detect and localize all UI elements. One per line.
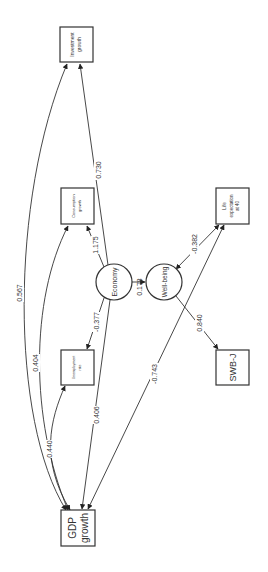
edge-label-gdp-investment: 0.567 [15, 284, 24, 302]
node-unemployment-rate: Unemployment rate [61, 350, 94, 385]
svg-text:0.404: 0.404 [32, 354, 39, 372]
investment-label-2: growth [76, 37, 82, 52]
gdp-label-1: GDP [67, 517, 78, 539]
svg-text:1.175: 1.175 [92, 236, 99, 254]
life-label-2: expectation [229, 194, 234, 218]
consumption-label-1: Consumption [71, 194, 76, 218]
edge-label-economy-wellbeing: 0.178 [136, 278, 143, 296]
node-gdp-growth: GDP growth [61, 510, 95, 546]
node-life-expectation: Life expectation at 40 [216, 188, 249, 224]
svg-text:0.178: 0.178 [136, 278, 143, 296]
economy-label: Economy [111, 267, 119, 297]
svg-text:0.567: 0.567 [16, 284, 23, 302]
edge-label-wellbeing-life: -0.382 [190, 233, 199, 255]
unemployment-label-2: rate [78, 364, 82, 370]
edge-label-economy-investment: 0.730 [94, 160, 103, 180]
life-label-3: at 40 [235, 201, 240, 212]
node-swb-j: SWB-J [216, 350, 249, 385]
svg-text:0.840: 0.840 [196, 314, 203, 332]
node-investment-growth: Investment growth [60, 27, 93, 62]
edge-label-economy-consumption: 1.175 [91, 236, 100, 254]
edge-label-gdp-consumption: 0.404 [31, 354, 40, 372]
unemployment-label-1: Unemployment [72, 356, 76, 380]
edge-label-wellbeing-swb: 0.840 [195, 314, 204, 332]
svg-text:0.440: 0.440 [46, 440, 53, 458]
edge-label-economy-gdp: 0.406 [92, 406, 101, 424]
node-consumption-growth: Consumption growth [61, 188, 94, 224]
edge-label-gdp-unemployment: 0.440 [45, 440, 54, 458]
svg-text:0.406: 0.406 [93, 406, 100, 424]
svg-text:-0.743: -0.743 [151, 364, 158, 384]
edge-label-gdp-life: -0.743 [150, 363, 159, 385]
gdp-label-2: growth [79, 513, 90, 543]
edge-label-economy-unemployment: -0.377 [92, 312, 101, 332]
path-diagram: Investment growth Consumption growth Une… [0, 0, 268, 572]
investment-label-1: Investment [69, 32, 75, 57]
consumption-label-2: growth [77, 200, 82, 212]
swb-label: SWB-J [228, 354, 238, 382]
svg-text:-0.377: -0.377 [93, 312, 100, 332]
svg-text:0.730: 0.730 [95, 161, 102, 179]
life-label-1: Life [222, 202, 227, 210]
node-wellbeing: Well-being [146, 264, 182, 300]
svg-text:-0.382: -0.382 [191, 234, 198, 254]
node-economy: Economy [96, 264, 132, 300]
wellbeing-label: Well-being [161, 266, 169, 297]
